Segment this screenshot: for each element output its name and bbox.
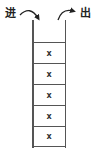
- push-arrow-icon: [20, 11, 38, 18]
- stack-cell: x: [32, 126, 66, 147]
- stack-container: x x x x x: [32, 20, 66, 148]
- stack-cell: x: [32, 84, 66, 105]
- stack-cells: x x x x x: [32, 42, 66, 147]
- stack-cell: x: [32, 105, 66, 126]
- stack-cell: x: [32, 63, 66, 84]
- pop-arrow-icon: [58, 10, 73, 20]
- stack-cell: x: [32, 42, 66, 63]
